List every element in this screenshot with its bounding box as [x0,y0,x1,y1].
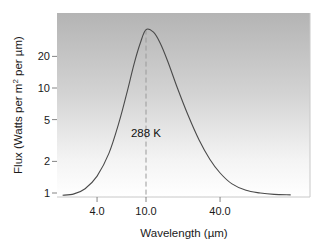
y-tick-label: 1 [44,187,50,199]
y-tick-label: 20 [38,50,50,62]
y-axis-ticks: 1251020 [38,50,57,199]
x-tick-label: 10.0 [135,205,156,217]
blackbody-chart: 1251020 4.010.040.0 288 K Wavelength (µm… [0,0,325,247]
y-tick-label: 2 [44,155,50,167]
x-tick-label: 40.0 [209,205,230,217]
y-tick-label: 10 [38,82,50,94]
x-axis-ticks: 4.010.040.0 [89,197,230,217]
y-axis-title: Flux (Watts per m2 per µm) [11,36,24,174]
x-axis-title: Wavelength (µm) [140,227,228,239]
x-tick-label: 4.0 [89,205,104,217]
y-tick-label: 5 [44,114,50,126]
temperature-annotation: 288 K [131,127,161,139]
